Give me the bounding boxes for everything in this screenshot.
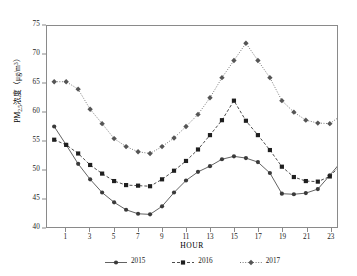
data-point-marker (52, 79, 57, 84)
series-line (54, 127, 330, 215)
data-point-marker (112, 200, 116, 204)
data-point-marker (181, 260, 185, 264)
data-point-marker (219, 75, 224, 80)
y-axis-title-superscript: 3 (13, 62, 19, 65)
data-point-marker (248, 259, 253, 264)
y-tick-label: 40 (33, 224, 40, 231)
x-tick-mark (210, 228, 211, 232)
data-point-marker (76, 162, 80, 166)
series-canvas (47, 26, 337, 227)
legend-label: 2016 (198, 258, 212, 265)
data-point-marker (208, 133, 212, 137)
y-tick-label: 50 (33, 166, 40, 173)
data-point-marker (88, 177, 92, 181)
data-point-marker (267, 75, 272, 80)
x-tick-mark (65, 228, 66, 232)
y-tick-label: 75 (33, 21, 40, 28)
data-point-marker (172, 169, 176, 173)
data-point-marker (316, 180, 320, 184)
legend-swatch-2017 (239, 258, 263, 267)
data-point-marker (244, 156, 248, 160)
legend-label: 2017 (266, 258, 280, 265)
x-tick-mark (258, 228, 259, 232)
series-line (54, 43, 330, 153)
data-point-marker (100, 190, 104, 194)
data-point-marker (244, 119, 248, 123)
data-point-marker (196, 170, 200, 174)
data-point-marker (304, 179, 308, 183)
legend-item-2017[interactable]: 2017 (239, 258, 280, 267)
data-point-marker (268, 148, 272, 152)
data-point-marker (303, 118, 308, 123)
chart-figure: 4045505560657075 PM2.5浓度（μg/m3） 13579111… (0, 0, 357, 276)
data-point-marker (280, 192, 284, 196)
data-point-marker (232, 99, 236, 103)
plot-area (46, 25, 338, 228)
data-point-marker (304, 191, 308, 195)
data-point-marker (52, 138, 56, 142)
y-tick-label: 45 (33, 195, 40, 202)
data-point-marker (88, 163, 92, 167)
data-point-marker (316, 187, 320, 191)
data-point-marker (159, 144, 164, 149)
data-point-marker (196, 147, 200, 151)
series-line-tail (330, 141, 337, 175)
y-axis-title-unit: μg/m (13, 65, 22, 81)
x-tick-mark (307, 228, 308, 232)
x-tick-mark (114, 228, 115, 232)
x-axis-title: HOUR (46, 241, 338, 250)
legend-item-2016[interactable]: 2016 (171, 258, 212, 267)
data-point-marker (256, 133, 260, 137)
data-point-marker (207, 95, 212, 100)
data-point-marker (100, 172, 104, 176)
data-point-marker (76, 151, 80, 155)
data-point-marker (136, 212, 140, 216)
y-tick-label: 55 (33, 137, 40, 144)
data-point-marker (292, 175, 296, 179)
data-point-marker (124, 183, 128, 187)
data-point-marker (75, 86, 80, 91)
chart-legend: 201520162017 (46, 255, 338, 269)
data-point-marker (63, 79, 68, 84)
data-point-marker (99, 121, 104, 126)
data-point-marker (148, 184, 152, 188)
x-tick-mark (234, 228, 235, 232)
data-point-marker (256, 160, 260, 164)
x-tick-mark (89, 228, 90, 232)
y-axis-title-prefix: PM (13, 112, 22, 123)
y-axis-title-suffix: ） (13, 54, 22, 62)
series-2015 (52, 124, 337, 216)
x-tick-mark (331, 228, 332, 232)
data-point-marker (160, 177, 164, 181)
data-point-marker (112, 179, 116, 183)
data-point-marker (327, 121, 332, 126)
data-point-marker (135, 149, 140, 154)
data-point-marker (220, 157, 224, 161)
data-point-marker (136, 184, 140, 188)
data-point-marker (328, 174, 332, 178)
data-point-marker (232, 154, 236, 158)
data-point-marker (114, 260, 118, 264)
data-point-marker (280, 165, 284, 169)
data-point-marker (172, 190, 176, 194)
data-point-marker (160, 204, 164, 208)
data-point-marker (315, 120, 320, 125)
x-tick-mark (186, 228, 187, 232)
data-point-marker (291, 109, 296, 114)
data-point-marker (220, 118, 224, 122)
data-point-marker (111, 136, 116, 141)
y-axis-title: PM2.5浓度（μg/m3） (12, 14, 25, 164)
data-point-marker (255, 58, 260, 63)
y-tick-label: 60 (33, 108, 40, 115)
legend-item-2015[interactable]: 2015 (104, 258, 145, 267)
series-line (54, 101, 330, 187)
data-point-marker (183, 124, 188, 129)
y-tick-label: 65 (33, 79, 40, 86)
x-tick-mark (162, 228, 163, 232)
legend-swatch-2016 (171, 258, 195, 267)
data-point-marker (184, 159, 188, 163)
data-point-marker (231, 58, 236, 63)
data-point-marker (147, 151, 152, 156)
series-line-tail (330, 79, 337, 124)
data-point-marker (184, 178, 188, 182)
